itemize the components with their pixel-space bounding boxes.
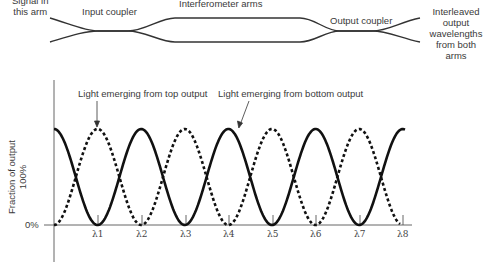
input-coupler-label: Input coupler [82, 6, 137, 17]
x-tick-lambda8: λ8 [397, 229, 408, 239]
x-tick-lambda3: λ3 [180, 229, 191, 239]
output-coupler-label: Output coupler [330, 15, 392, 26]
x-tick-lambda7: λ7 [354, 229, 365, 239]
top-output-annotation: Light emerging from top output [78, 88, 207, 99]
bottom-output-annotation: Light emerging from bottom output [218, 88, 363, 99]
annotation-arrows [95, 101, 250, 128]
y-tick-0: 0% [25, 219, 39, 230]
lower-waveguide [50, 31, 420, 42]
input-signal-label: Signal in this arm [12, 0, 48, 17]
y-axis-label: Fraction of output 100% [6, 127, 28, 227]
interleaved-output-label: Interleaved output wavelengths from both… [425, 6, 487, 61]
mach-zehnder-diagram [0, 0, 490, 274]
bottom-output-curve [54, 129, 405, 225]
x-tick-lambda2: λ2 [136, 229, 147, 239]
x-tick-lambda6: λ6 [310, 229, 321, 239]
interferometer-arms-label: Interferometer arms [179, 0, 262, 9]
x-tick-lambda1: λ1 [92, 229, 103, 239]
x-tick-lambda5: λ5 [267, 229, 278, 239]
x-tick-lambda4: λ4 [223, 229, 234, 239]
